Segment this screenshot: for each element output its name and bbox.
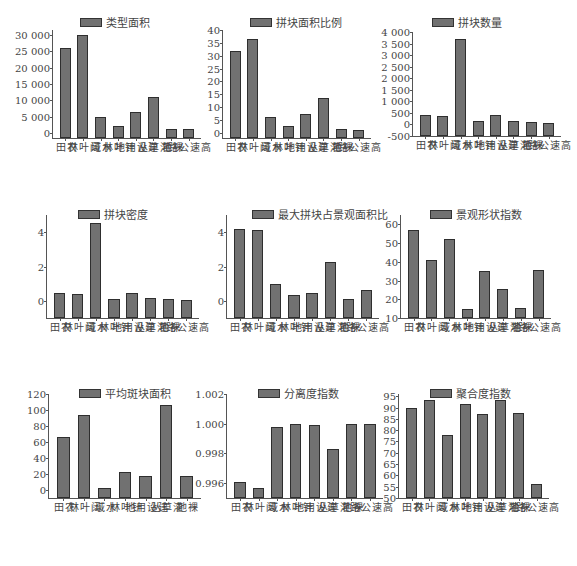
x-tick-mark	[253, 138, 254, 141]
y-tick-mark	[396, 430, 399, 431]
bar-3	[288, 295, 299, 318]
x-tick-mark	[150, 318, 151, 321]
y-tick-mark	[396, 498, 399, 499]
y-tick-label: 65	[383, 459, 396, 470]
y-tick-label: 1.002	[195, 389, 224, 400]
y-tick-mark	[220, 30, 223, 31]
bar-0	[234, 229, 245, 318]
y-tick-mark	[410, 44, 413, 45]
x-tick-mark	[333, 498, 334, 501]
y-tick-label: 30	[385, 275, 398, 286]
y-tick-mark	[396, 419, 399, 420]
bar-4	[126, 293, 137, 318]
y-tick-mark	[224, 301, 227, 302]
x-category-label: 高速公路	[527, 140, 571, 150]
x-tick-mark	[496, 136, 497, 139]
bar-6	[343, 299, 354, 318]
plot-area: 102030405060农田阔叶林水域针叶林建设用地灌草丛裸地高速公路	[400, 215, 551, 319]
y-tick-label: 50	[383, 493, 396, 504]
bar-6	[346, 424, 358, 498]
y-tick-label: 40	[33, 453, 46, 464]
x-tick-mark	[429, 498, 430, 501]
bar-2	[444, 239, 455, 318]
plot-area: 05 00010 00015 00020 00025 00030 000农田阔叶…	[52, 30, 201, 139]
bar-4	[139, 476, 152, 498]
y-tick-mark	[220, 107, 223, 108]
bar-1	[253, 488, 265, 498]
x-tick-mark	[271, 138, 272, 141]
plot-area: 024农田阔叶林水域针叶林建设用地灌草丛裸地高速公路	[46, 215, 199, 319]
y-tick-mark	[220, 94, 223, 95]
x-category-label: 高速公路	[344, 322, 388, 332]
x-tick-mark	[294, 318, 295, 321]
bar-2	[455, 39, 466, 136]
x-tick-mark	[296, 498, 297, 501]
bar-5	[508, 121, 519, 136]
x-category-label: 高速公路	[515, 502, 559, 512]
x-tick-mark	[259, 498, 260, 501]
y-tick-mark	[220, 120, 223, 121]
bar-2	[265, 117, 276, 138]
x-tick-mark	[84, 498, 85, 501]
y-tick-label: 3 500	[381, 38, 410, 49]
y-tick-mark	[224, 424, 227, 425]
bar-5	[160, 405, 173, 498]
bar-7	[183, 129, 194, 138]
x-tick-mark	[425, 136, 426, 139]
x-tick-mark	[483, 498, 484, 501]
y-tick-mark	[46, 458, 49, 459]
y-tick-label: 80	[33, 421, 46, 432]
x-tick-mark	[132, 318, 133, 321]
bar-4	[130, 112, 141, 138]
y-tick-mark	[220, 81, 223, 82]
y-tick-label: 0.996	[195, 478, 224, 489]
y-tick-label: 75	[383, 436, 396, 447]
bar-3	[460, 404, 471, 498]
x-tick-mark	[83, 138, 84, 141]
x-tick-mark	[412, 498, 413, 501]
x-tick-mark	[153, 138, 154, 141]
legend-label: 拼块数量	[458, 14, 502, 30]
bar-7	[181, 300, 192, 318]
x-tick-mark	[531, 136, 532, 139]
x-tick-mark	[96, 318, 97, 321]
bar-5	[497, 289, 508, 318]
bar-7	[353, 130, 364, 138]
y-tick-label: 40	[385, 256, 398, 267]
bar-1	[252, 230, 263, 318]
y-tick-label: 10 000	[15, 95, 50, 106]
x-category-label: 高速公路	[348, 502, 392, 512]
bar-3	[462, 309, 473, 318]
plot-area: 0510152025303540农田阔叶林水域针叶林建设用地灌草丛裸地高速公路	[222, 30, 371, 139]
y-tick-mark	[410, 32, 413, 33]
bar-2	[270, 284, 281, 318]
y-tick-mark	[410, 124, 413, 125]
y-tick-label: 30 000	[15, 29, 50, 40]
y-tick-label: 95	[383, 391, 396, 402]
y-tick-label: 60	[33, 437, 46, 448]
y-tick-mark	[50, 133, 53, 134]
y-tick-label: 25	[207, 63, 220, 74]
y-tick-label: 20	[207, 76, 220, 87]
y-tick-label: 70	[383, 447, 396, 458]
x-tick-mark	[235, 138, 236, 141]
bar-0	[57, 437, 70, 498]
legend-swatch-icon	[250, 18, 272, 27]
bar-6	[526, 122, 537, 136]
y-tick-mark	[46, 490, 49, 491]
y-tick-label: 1.000	[195, 418, 224, 429]
x-category-label: 高速公路	[167, 142, 211, 152]
y-tick-mark	[410, 78, 413, 79]
bar-3	[283, 126, 294, 138]
x-tick-mark	[370, 498, 371, 501]
bar-0	[60, 48, 71, 138]
x-tick-mark	[314, 498, 315, 501]
bar-3	[290, 424, 302, 498]
y-tick-mark	[398, 318, 401, 319]
x-tick-mark	[467, 318, 468, 321]
y-tick-mark	[410, 90, 413, 91]
x-tick-mark	[78, 318, 79, 321]
y-tick-mark	[396, 475, 399, 476]
x-category-label: 裸地	[176, 502, 198, 512]
bar-4	[477, 414, 488, 498]
